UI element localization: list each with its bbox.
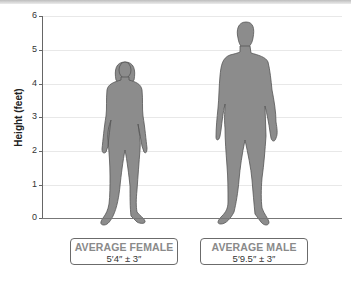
female-caption-box: AVERAGE FEMALE 5′4″ ± 3″ [70,238,178,265]
y-tick-0: 0 [23,212,37,222]
y-axis [39,16,43,219]
male-caption-value: 5′9.5″ ± 3″ [201,253,307,264]
y-tick-6: 6 [23,10,37,20]
male-silhouette-icon [216,22,277,225]
y-tick-3: 3 [23,111,37,121]
female-caption-value: 5′4″ ± 3″ [71,253,177,264]
y-tick-4: 4 [23,78,37,88]
y-tick-1: 1 [23,179,37,189]
y-tick-2: 2 [23,145,37,155]
gridlines [43,17,342,186]
y-tick-5: 5 [23,44,37,54]
male-caption-title: AVERAGE MALE [201,241,307,253]
female-caption-title: AVERAGE FEMALE [71,241,177,253]
female-silhouette-icon [101,62,147,225]
y-axis-label: Height (feet) [13,88,24,148]
male-caption-box: AVERAGE MALE 5′9.5″ ± 3″ [200,238,308,265]
